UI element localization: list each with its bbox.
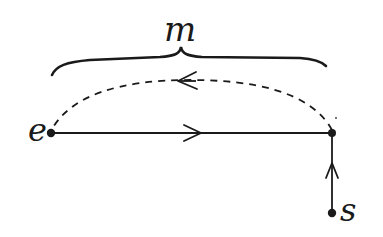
label-m: m [164, 12, 196, 46]
label-s: s [340, 194, 356, 226]
label-e: e [28, 114, 47, 146]
stray-ink-dot [335, 117, 337, 119]
node-junction-dot [328, 129, 336, 137]
node-s-dot [328, 209, 336, 217]
node-e-dot [47, 129, 55, 137]
curly-brace [52, 47, 326, 75]
